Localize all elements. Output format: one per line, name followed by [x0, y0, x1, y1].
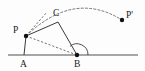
point-label-A: A [20, 59, 27, 69]
segment-A-P [24, 36, 26, 55]
point-label-B: B [74, 59, 80, 69]
segment-C-B [58, 22, 77, 55]
vertex-dot-P-prime [120, 18, 124, 22]
point-label-P: P [13, 25, 18, 35]
vertex-dot-B [75, 53, 79, 57]
segment-P-B-diagonal [26, 36, 77, 55]
vertex-dot-P [24, 34, 28, 38]
ray-P-upper [26, 12, 47, 36]
rotation-arc-P-to-P-prime [26, 8, 122, 36]
point-label-C: C [53, 8, 59, 18]
segment-P-C [26, 22, 58, 36]
geometry-figure: P C P' A B [0, 0, 145, 71]
geometry-canvas: P C P' A B [0, 0, 145, 71]
point-label-P-prime: P' [126, 10, 133, 20]
